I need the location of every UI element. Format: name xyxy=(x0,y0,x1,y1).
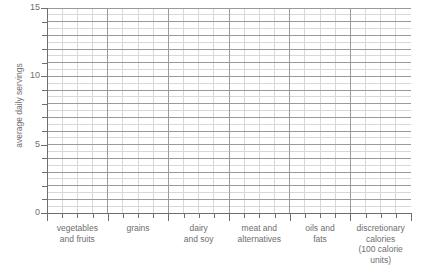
y-axis-tick xyxy=(41,145,47,146)
gridlines xyxy=(47,8,411,213)
x-axis-category-label-line: and fruits xyxy=(32,234,122,245)
x-axis-minor-tick xyxy=(184,214,185,218)
y-axis-tick-label: 10 xyxy=(30,71,40,80)
y-axis-tick-label: 5 xyxy=(35,140,40,149)
x-axis-category-label-line: units) xyxy=(336,255,426,266)
y-axis-tick xyxy=(42,63,47,64)
x-axis-minor-tick xyxy=(335,214,336,218)
y-axis-tick xyxy=(42,49,47,50)
plot-area xyxy=(47,8,411,213)
x-axis-minor-tick xyxy=(77,214,78,218)
x-axis-minor-tick xyxy=(244,214,245,218)
x-axis-minor-tick xyxy=(123,214,124,218)
x-axis-minor-tick xyxy=(62,214,63,218)
y-axis-tick xyxy=(42,90,47,91)
x-axis-minor-tick xyxy=(214,214,215,218)
chart-container: 151050 average daily servings vegetables… xyxy=(0,0,431,275)
x-axis-category-label-line: calories xyxy=(336,234,426,245)
x-axis-major-tick xyxy=(168,214,169,221)
x-axis-minor-tick xyxy=(153,214,154,218)
x-axis-category-label-line: (100 calorie xyxy=(336,244,426,255)
x-axis-minor-tick xyxy=(396,214,397,218)
y-axis-tick-label: 0 xyxy=(35,208,40,217)
y-axis-tick xyxy=(42,158,47,159)
y-axis-tick xyxy=(42,199,47,200)
grid-svg xyxy=(47,8,411,213)
x-axis-category-label-line: discretionary xyxy=(336,223,426,234)
x-axis-category-label: discretionarycalories(100 calorieunits) xyxy=(336,223,426,265)
x-axis-major-tick xyxy=(47,214,48,221)
y-axis-tick xyxy=(42,172,47,173)
x-axis-minor-tick xyxy=(138,214,139,218)
y-axis-line xyxy=(47,8,48,214)
x-axis-minor-tick xyxy=(259,214,260,218)
x-axis-major-tick xyxy=(350,214,351,221)
y-axis-tick xyxy=(42,104,47,105)
x-axis-minor-tick xyxy=(275,214,276,218)
y-axis-tick xyxy=(42,186,47,187)
y-axis-tick xyxy=(41,76,47,77)
y-axis-tick xyxy=(42,117,47,118)
x-axis-minor-tick xyxy=(320,214,321,218)
x-axis-major-tick xyxy=(229,214,230,221)
x-axis-major-tick xyxy=(290,214,291,221)
y-axis-tick xyxy=(41,8,47,9)
x-axis-minor-tick xyxy=(305,214,306,218)
y-axis-tick xyxy=(42,35,47,36)
x-axis-major-tick xyxy=(411,214,412,221)
y-axis-tick xyxy=(42,131,47,132)
x-axis-major-tick xyxy=(108,214,109,221)
x-axis-minor-tick xyxy=(199,214,200,218)
x-axis-minor-tick xyxy=(93,214,94,218)
y-axis-title: average daily servings xyxy=(15,21,24,191)
y-axis-tick-label: 15 xyxy=(30,3,40,12)
x-axis-minor-tick xyxy=(381,214,382,218)
x-axis-minor-tick xyxy=(366,214,367,218)
y-axis-tick xyxy=(42,22,47,23)
